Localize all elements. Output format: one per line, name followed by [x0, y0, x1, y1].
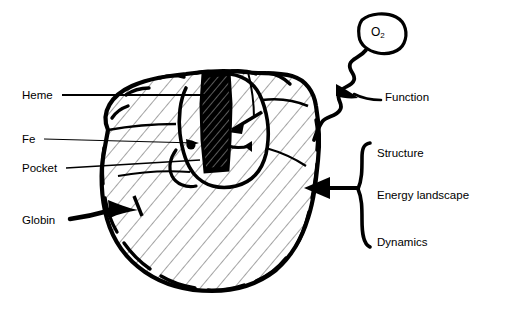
- right-brace: [358, 143, 370, 247]
- myoglobin-schematic-figure: Heme Fe Pocket Globin O2 Function Struct…: [0, 0, 508, 309]
- label-heme: Heme: [22, 90, 53, 102]
- function-arrow: [336, 84, 381, 100]
- diagram-canvas: [0, 0, 508, 309]
- label-dynamics: Dynamics: [377, 237, 427, 249]
- fe-atom: [187, 141, 196, 150]
- o2-subscript: 2: [380, 31, 384, 40]
- label-globin: Globin: [22, 215, 55, 227]
- label-pocket: Pocket: [22, 163, 57, 175]
- label-structure: Structure: [377, 148, 424, 160]
- label-energy-landscape: Energy landscape: [377, 190, 469, 202]
- label-fe: Fe: [22, 134, 35, 146]
- o2-element: O: [371, 25, 380, 39]
- heme-group: [201, 72, 231, 172]
- label-function: Function: [385, 92, 429, 104]
- label-o2: O2: [371, 26, 385, 38]
